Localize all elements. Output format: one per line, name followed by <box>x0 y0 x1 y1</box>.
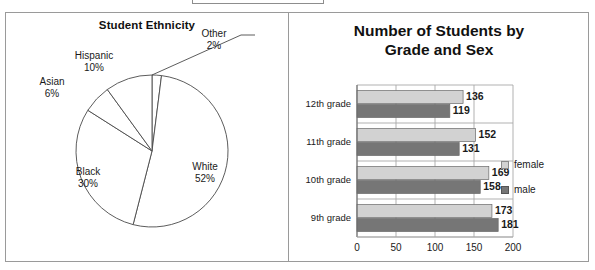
bar-male-12th-grade <box>357 105 450 118</box>
legend-swatch-male-icon <box>501 186 509 194</box>
bar-category-label: 12th grade <box>289 98 351 109</box>
bar-value-male: 181 <box>501 218 519 230</box>
bar-male-9th-grade <box>357 219 498 232</box>
legend-label-male: male <box>514 184 536 195</box>
legend-swatch-female-icon <box>501 161 509 169</box>
bar-category-label: 10th grade <box>289 174 351 185</box>
bar-chart-legend: female male <box>501 159 544 209</box>
pie-label-hispanic: Hispanic10% <box>57 50 131 74</box>
screenshot-root: Student Ethnicity Other2% Hispanic10% As… <box>0 0 595 270</box>
pie-chart-graphic <box>6 13 288 261</box>
bar-value-male: 131 <box>462 142 480 154</box>
pie-label-other: Other2% <box>188 28 240 52</box>
legend-item-male: male <box>501 184 544 195</box>
bar-value-male: 158 <box>483 180 501 192</box>
x-tick-label: 0 <box>342 242 372 253</box>
bar-chart-panel: Number of Students by Grade and Sex 12th… <box>289 13 589 261</box>
bar-value-female: 152 <box>479 128 497 140</box>
legend-label-female: female <box>514 159 544 170</box>
pie-chart-panel: Student Ethnicity Other2% Hispanic10% As… <box>6 13 288 261</box>
bar-value-female: 136 <box>466 90 484 102</box>
legend-item-female: female <box>501 159 544 170</box>
x-tick-label: 100 <box>420 242 450 253</box>
pie-label-black: Black30% <box>60 166 116 190</box>
top-caption-box <box>192 0 324 4</box>
bar-female-12th-grade <box>357 91 463 104</box>
pie-label-asian: Asian6% <box>25 76 79 100</box>
bar-male-11th-grade <box>357 143 459 156</box>
bar-female-11th-grade <box>357 129 476 142</box>
x-tick-label: 150 <box>459 242 489 253</box>
bar-value-male: 119 <box>453 104 470 116</box>
pie-label-white: White52% <box>178 161 232 185</box>
bar-category-label: 11th grade <box>289 136 351 147</box>
bar-category-label: 9th grade <box>289 212 351 223</box>
x-tick-label: 50 <box>381 242 411 253</box>
bar-female-10th-grade <box>357 167 489 180</box>
bar-male-10th-grade <box>357 181 480 194</box>
bar-female-9th-grade <box>357 205 492 218</box>
x-tick-label: 200 <box>498 242 528 253</box>
